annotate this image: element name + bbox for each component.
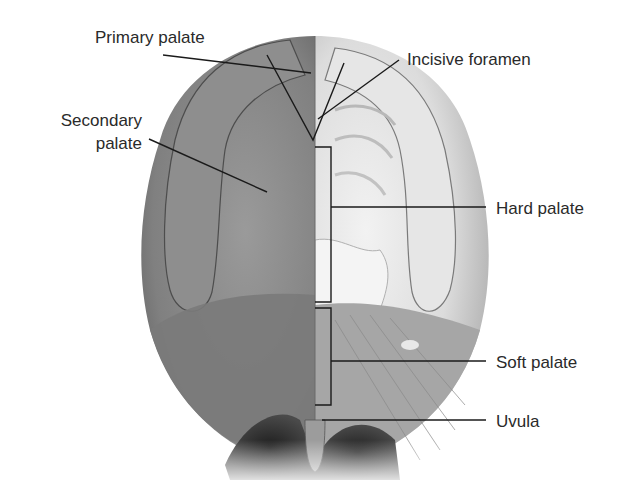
label-primary-palate: Primary palate — [95, 28, 205, 48]
label-hard-palate: Hard palate — [496, 199, 584, 219]
label-incisive-foramen: Incisive foramen — [407, 50, 531, 70]
label-soft-palate: Soft palate — [496, 353, 577, 373]
label-secondary-palate-line2: palate — [40, 134, 142, 154]
palate-diagram: Primary palate Incisive foramen Secondar… — [0, 0, 630, 488]
label-uvula: Uvula — [496, 412, 539, 432]
label-secondary-palate-line1: Secondary — [40, 111, 142, 131]
